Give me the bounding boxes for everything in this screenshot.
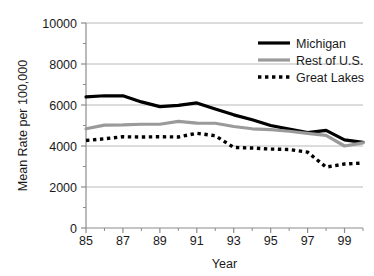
legend-label-great-lakes: Great Lakes <box>296 71 364 85</box>
x-tick-label: 95 <box>264 234 278 248</box>
legend-label-michigan: Michigan <box>296 37 346 51</box>
x-tick-label: 89 <box>153 234 167 248</box>
x-axis-title: Year <box>212 257 237 271</box>
x-tick-label: 93 <box>227 234 241 248</box>
y-tick-label: 0 <box>70 222 77 236</box>
x-tick-label: 87 <box>116 234 130 248</box>
y-tick-label: 4000 <box>49 140 77 154</box>
y-tick-label: 6000 <box>49 99 77 113</box>
x-tick-label: 85 <box>79 234 93 248</box>
y-axis-title: Mean Rate per 100,000 <box>16 60 30 191</box>
y-tick-label: 10000 <box>42 17 77 31</box>
y-tick-label: 8000 <box>49 58 77 72</box>
x-tick-label: 91 <box>190 234 204 248</box>
x-tick-label: 99 <box>338 234 352 248</box>
legend-label-rest-of-u-s: Rest of U.S. <box>296 54 363 68</box>
y-tick-label: 2000 <box>49 181 77 195</box>
line-chart: 0200040006000800010000 8587899193959799 … <box>0 0 374 276</box>
chart-canvas: 0200040006000800010000 8587899193959799 … <box>0 0 374 276</box>
x-tick-label: 97 <box>301 234 315 248</box>
